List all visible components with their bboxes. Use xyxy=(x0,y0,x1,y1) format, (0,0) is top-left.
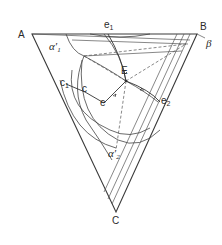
point-label-c1: c1 xyxy=(60,77,69,89)
point-label-E: E xyxy=(121,65,128,76)
point-label-c: c xyxy=(82,83,87,94)
vertex-label-A: A xyxy=(18,29,25,40)
point-label-e1: e1 xyxy=(104,19,114,31)
point-label-e: e xyxy=(100,97,106,108)
vertex-label-C: C xyxy=(112,215,119,226)
region-label-alpha1: α′1 xyxy=(49,40,61,54)
ternary-diagram: A B C e1 E e2 c1 c e α′1 α′2 β xyxy=(0,0,222,245)
beta-region-lines xyxy=(104,34,205,204)
point-E xyxy=(125,80,128,83)
arrow-markers xyxy=(113,71,144,97)
region-label-alpha2: α′2 xyxy=(108,147,120,161)
region-label-beta: β xyxy=(205,37,212,49)
point-label-e2: e2 xyxy=(161,95,171,107)
vertex-label-B: B xyxy=(200,21,207,32)
